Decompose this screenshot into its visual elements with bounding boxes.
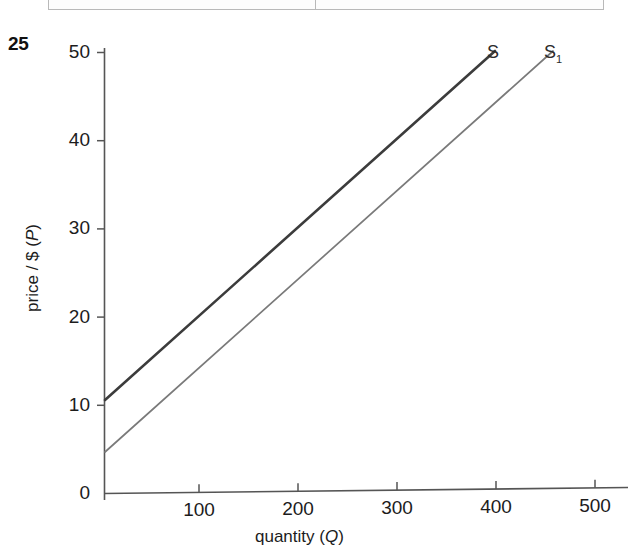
curve-label-s1: S1 [544,42,562,65]
y-axis-title: price / $ (P) [23,208,43,328]
supply-curve-s [105,51,495,400]
y-axis-title-symbol: P [23,230,42,241]
supply-curve-s1 [105,51,553,452]
x-tick-label-300: 300 [369,497,425,519]
x-axis-title-close: ) [338,527,344,546]
x-axis-title-symbol: Q [325,527,338,546]
x-axis-title-text: quantity ( [255,527,325,546]
x-tick-label-200: 200 [270,498,326,520]
y-tick-label-0: 0 [48,482,90,504]
plot-canvas [0,0,634,557]
curve-label-s1-subscript: 1 [556,53,562,65]
x-tick-label-400: 400 [468,496,524,518]
y-axis-title-text: price / $ ( [23,241,42,312]
y-axis-title-close: ) [23,224,42,230]
supply-curve-figure: 50 40 30 20 10 0 100 200 300 400 500 pri… [0,0,634,557]
x-tick-label-100: 100 [171,499,227,521]
y-tick-label-20: 20 [48,306,90,328]
y-tick-label-30: 30 [48,217,90,239]
curve-label-s1-text: S [544,42,556,62]
y-tick-label-40: 40 [48,129,90,151]
x-axis-title: quantity (Q) [255,527,344,547]
x-tick-label-500: 500 [567,495,623,517]
y-tick-label-50: 50 [48,41,90,63]
y-tick-label-10: 10 [48,394,90,416]
curve-label-s: S [487,42,499,63]
x-axis-line [104,488,628,494]
